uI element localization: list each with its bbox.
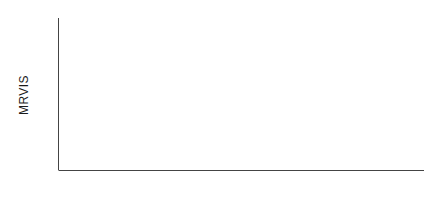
chart-container: MRVIS (0, 0, 448, 209)
y-axis-label: MRVIS (17, 75, 31, 115)
line-chart: MRVIS (0, 0, 448, 209)
